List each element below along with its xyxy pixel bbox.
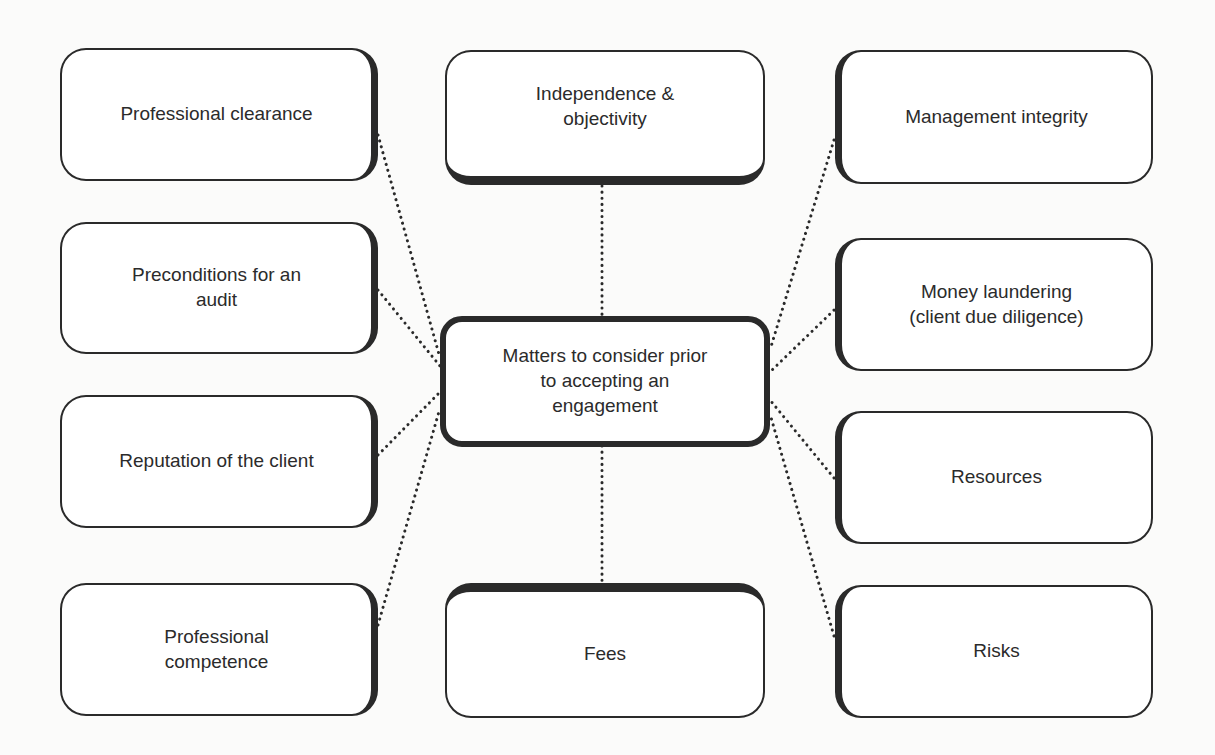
node-label: Money laundering (client due diligence) xyxy=(909,280,1083,329)
node-reputation: Reputation of the client xyxy=(60,395,378,528)
node-preconditions: Preconditions for an audit xyxy=(60,222,378,354)
node-label: Management integrity xyxy=(905,105,1088,130)
node-label: Risks xyxy=(973,639,1019,664)
connector-resources xyxy=(770,400,834,478)
node-label: Independence & objectivity xyxy=(536,82,674,131)
node-label: Professional clearance xyxy=(120,102,312,127)
connector-professional-competence xyxy=(378,408,440,625)
node-money-laundering: Money laundering (client due diligence) xyxy=(835,238,1153,371)
connector-professional-clearance xyxy=(378,135,440,358)
node-risks: Risks xyxy=(835,585,1153,718)
node-resources: Resources xyxy=(835,411,1153,544)
central-topic-box: Matters to consider prior to accepting a… xyxy=(440,316,770,447)
node-independence: Independence & objectivity xyxy=(445,50,765,185)
node-label: Professional competence xyxy=(164,625,269,674)
node-label: Fees xyxy=(584,642,626,667)
node-label: Reputation of the client xyxy=(119,449,313,474)
node-professional-clearance: Professional clearance xyxy=(60,48,378,181)
connector-preconditions xyxy=(378,290,440,366)
node-label: Preconditions for an audit xyxy=(132,263,301,312)
connector-risks xyxy=(770,414,834,636)
node-management-integrity: Management integrity xyxy=(835,50,1153,184)
connector-reputation xyxy=(378,392,440,455)
node-label: Resources xyxy=(951,465,1042,490)
node-fees: Fees xyxy=(445,583,765,718)
connector-money-laundering xyxy=(770,310,834,372)
node-professional-competence: Professional competence xyxy=(60,583,378,716)
central-topic-label: Matters to consider prior to accepting a… xyxy=(503,344,708,418)
